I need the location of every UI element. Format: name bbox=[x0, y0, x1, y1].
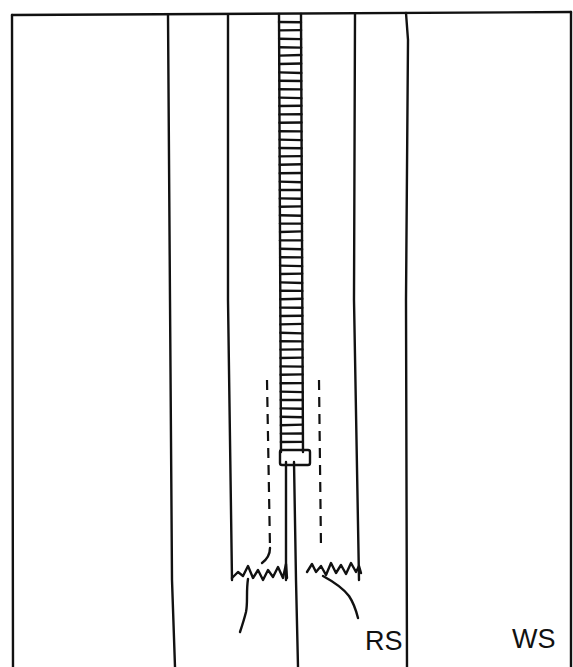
zipper-tooth bbox=[279, 55, 301, 56]
zipper-teeth bbox=[279, 14, 303, 452]
fold-line-left-outer bbox=[168, 15, 175, 667]
fold-line-right-outer bbox=[406, 13, 408, 667]
zipper-diagram: RS WS bbox=[0, 0, 573, 667]
zipper-tooth bbox=[280, 299, 302, 300]
stitching-dashed-left bbox=[267, 380, 270, 548]
zipper-tooth bbox=[280, 249, 302, 250]
thread-tail-left bbox=[240, 579, 248, 632]
zipper-tooth bbox=[280, 324, 302, 325]
zipper-tooth bbox=[280, 182, 302, 183]
center-seam-line bbox=[294, 462, 298, 667]
zipper-tape-right-edge bbox=[354, 14, 359, 580]
zipper-tooth bbox=[280, 266, 302, 267]
zipper-tooth bbox=[280, 333, 302, 334]
zipper-tooth bbox=[280, 215, 302, 216]
zipper-tooth bbox=[281, 392, 303, 393]
thread-tail-right bbox=[323, 576, 358, 618]
zipper-tooth bbox=[281, 425, 303, 426]
zipper-tooth bbox=[279, 98, 301, 99]
zipper-tooth bbox=[280, 164, 302, 165]
stitching-dashed-right bbox=[319, 380, 321, 548]
diagram-canvas bbox=[0, 0, 573, 667]
zipper-tooth bbox=[279, 72, 301, 73]
zipper-tape-left-edge bbox=[228, 15, 232, 580]
top-border bbox=[12, 12, 571, 15]
zipper-tooth bbox=[280, 140, 302, 141]
zipper-tooth bbox=[280, 231, 302, 232]
stitching-end-left bbox=[262, 548, 270, 563]
frayed-edge-left bbox=[232, 564, 287, 580]
label-wrong-side: WS bbox=[512, 624, 556, 655]
zipper-tooth bbox=[279, 64, 301, 65]
left-border bbox=[12, 15, 13, 667]
label-right-side: RS bbox=[365, 626, 403, 657]
zipper-tooth bbox=[280, 282, 302, 283]
frayed-edge-right bbox=[307, 563, 361, 575]
